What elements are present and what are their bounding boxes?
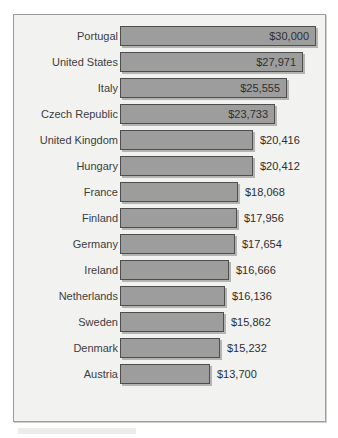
bar-value-label: $18,068: [245, 182, 285, 202]
bar: [120, 130, 253, 150]
bar-value-label: $17,956: [244, 208, 284, 228]
bar-row: Portugal$30,000: [14, 24, 325, 50]
bar-track: $15,862: [120, 312, 321, 333]
bar-track: $17,956: [120, 208, 321, 229]
bar: [120, 156, 253, 176]
bar-category-label: Denmark: [73, 336, 118, 360]
bar-value-label: $27,971: [120, 52, 296, 72]
bar: [120, 338, 220, 358]
bar-category-label: Finland: [82, 206, 118, 230]
bar-value-label: $16,666: [236, 260, 276, 280]
bar: [120, 260, 229, 280]
bar-value-label: $25,555: [120, 78, 280, 98]
bar-category-label: Czech Republic: [41, 102, 118, 126]
bar-rows-container: Portugal$30,000United States$27,971Italy…: [14, 24, 325, 388]
bar-row: Italy$25,555: [14, 76, 325, 102]
bar-track: $13,700: [120, 364, 321, 385]
bar-row: Austria$13,700: [14, 362, 325, 388]
bar-track: $16,136: [120, 286, 321, 307]
bar-track: $20,412: [120, 156, 321, 177]
bar: [120, 286, 225, 306]
bar-row: France$18,068: [14, 180, 325, 206]
bar-row: Finland$17,956: [14, 206, 325, 232]
bar-value-label: $23,733: [120, 104, 268, 124]
bar-track: $23,733: [120, 104, 321, 125]
bar-category-label: Portugal: [77, 24, 118, 48]
bar-value-label: $15,232: [227, 338, 267, 358]
bar-category-label: Hungary: [76, 154, 118, 178]
bar-value-label: $15,862: [231, 312, 271, 332]
bar-value-label: $13,700: [217, 364, 257, 384]
bar-value-label: $17,654: [242, 234, 282, 254]
bar-row: Germany$17,654: [14, 232, 325, 258]
bar-track: $30,000: [120, 26, 321, 47]
bar-category-label: Ireland: [84, 258, 118, 282]
bar-category-label: United States: [52, 50, 118, 74]
bar: [120, 364, 210, 384]
scan-artifact: [18, 428, 136, 434]
bar-value-label: $20,416: [260, 130, 300, 150]
bar-row: Sweden$15,862: [14, 310, 325, 336]
bar-category-label: Sweden: [78, 310, 118, 334]
bar-track: $27,971: [120, 52, 321, 73]
bar-row: United Kingdom$20,416: [14, 128, 325, 154]
bar-row: Czech Republic$23,733: [14, 102, 325, 128]
bar-track: $15,232: [120, 338, 321, 359]
bar-category-label: United Kingdom: [40, 128, 118, 152]
bar-row: Hungary$20,412: [14, 154, 325, 180]
bar-track: $17,654: [120, 234, 321, 255]
bar-track: $18,068: [120, 182, 321, 203]
bar: [120, 312, 224, 332]
bar-value-label: $16,136: [232, 286, 272, 306]
bar-value-label: $20,412: [260, 156, 300, 176]
bar-chart-panel: Portugal$30,000United States$27,971Italy…: [13, 14, 326, 422]
bar-row: United States$27,971: [14, 50, 325, 76]
bar-track: $20,416: [120, 130, 321, 151]
bar-category-label: Netherlands: [59, 284, 118, 308]
bar: [120, 208, 237, 228]
bar-row: Netherlands$16,136: [14, 284, 325, 310]
bar-category-label: Italy: [98, 76, 118, 100]
bar-row: Denmark$15,232: [14, 336, 325, 362]
bar: [120, 182, 238, 202]
bar-value-label: $30,000: [120, 26, 309, 46]
bar-category-label: Germany: [73, 232, 118, 256]
bar-category-label: Austria: [84, 362, 118, 386]
bar: [120, 234, 235, 254]
bar-track: $25,555: [120, 78, 321, 99]
bar-row: Ireland$16,666: [14, 258, 325, 284]
bar-category-label: France: [84, 180, 118, 204]
bar-track: $16,666: [120, 260, 321, 281]
